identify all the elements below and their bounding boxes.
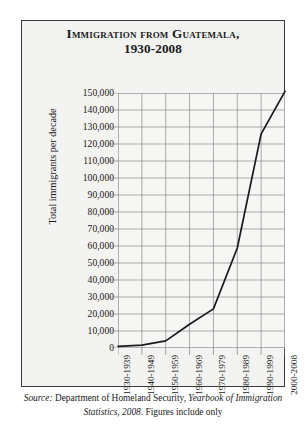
y-axis-tick-label: 30,000 xyxy=(52,292,114,302)
y-axis-tick-label: 130,000 xyxy=(52,122,114,132)
figure-container: Immigration from Guatemala, 1930-2008 To… xyxy=(0,0,307,432)
y-axis-tick-label: 140,000 xyxy=(52,105,114,115)
source-note: . Figures include only xyxy=(141,407,223,417)
title-block: Immigration from Guatemala, 1930-2008 xyxy=(22,27,284,57)
page-title: Immigration from Guatemala, xyxy=(22,27,284,42)
y-axis-tick-label: 100,000 xyxy=(52,173,114,183)
chart-subtitle: 1930-2008 xyxy=(22,42,284,57)
x-axis-tick-marks xyxy=(118,348,285,355)
y-axis-tick-labels: 150,000140,000130,000120,000110,000100,0… xyxy=(50,93,114,348)
y-axis-tick-label: 70,000 xyxy=(52,224,114,234)
y-axis-tick-label: 150,000 xyxy=(52,88,114,98)
y-axis-tick-label: 90,000 xyxy=(52,190,114,200)
y-axis-tick-label: 20,000 xyxy=(52,309,114,319)
y-axis-tick-label: 10,000 xyxy=(52,326,114,336)
y-axis-tick-label: 110,000 xyxy=(52,156,114,166)
source-label: Source: xyxy=(24,393,53,403)
y-axis-tick-label: 0 xyxy=(52,343,114,353)
source-caption: Source: Department of Homeland Security,… xyxy=(21,392,285,419)
y-axis-tick-label: 60,000 xyxy=(52,241,114,251)
y-axis-tick-label: 40,000 xyxy=(52,275,114,285)
x-axis-tick-label: 2000-2008 xyxy=(289,355,299,407)
y-axis-tick-marks xyxy=(110,93,118,348)
chart-panel: Immigration from Guatemala, 1930-2008 To… xyxy=(21,20,285,387)
data-series-line xyxy=(118,93,285,348)
plot-area xyxy=(118,93,285,348)
y-axis-tick-label: 120,000 xyxy=(52,139,114,149)
y-axis-tick-label: 80,000 xyxy=(52,207,114,217)
y-axis-tick-label: 50,000 xyxy=(52,258,114,268)
source-agency: Department of Homeland Security, xyxy=(55,393,186,403)
